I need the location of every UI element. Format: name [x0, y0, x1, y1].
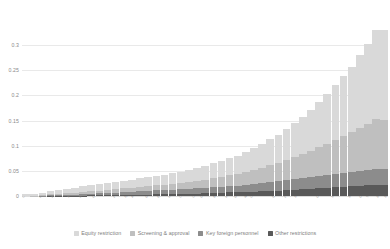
bar-segment [201, 166, 209, 180]
bar-segment [275, 135, 283, 163]
bar-column [372, 30, 380, 196]
bar-segment [332, 187, 340, 196]
bar-segment [348, 186, 356, 196]
bar-column [22, 30, 30, 196]
bar-column [315, 30, 323, 196]
bar-segment [266, 165, 274, 182]
bar-segment [340, 173, 348, 187]
bar-column [144, 30, 152, 196]
bar-segment [128, 180, 136, 188]
bar-column [218, 30, 226, 196]
bar-segment [136, 178, 144, 187]
bar-column [153, 30, 161, 196]
bar-segment [307, 177, 315, 189]
bar-segment [283, 180, 291, 190]
bar-segment [323, 144, 331, 175]
bar-column [120, 30, 128, 196]
bar-column [112, 30, 120, 196]
bar-segment [372, 30, 380, 119]
bar-segment [275, 163, 283, 181]
bar-segment [340, 187, 348, 196]
y-axis-tick-label: 0 [16, 193, 19, 199]
x-axis-labels: LuxembourgPortugalNetherlandsSloveniaRom… [22, 196, 388, 224]
legend-item[interactable]: Equity restriction [74, 230, 122, 236]
legend-item[interactable]: Screening & approval [130, 230, 189, 236]
bar-segment [340, 76, 348, 136]
bar-column [136, 30, 144, 196]
bar-segment [315, 176, 323, 188]
x-axis-tick-label: Japan [376, 196, 383, 199]
bar-segment [201, 180, 209, 188]
bar-column [340, 30, 348, 196]
bar-column [266, 30, 274, 196]
y-axis-tick-label: 0.3 [11, 42, 19, 48]
x-axis-tick-label: Latvia [192, 196, 199, 199]
bar-segment [185, 182, 193, 189]
legend-item[interactable]: Key foreign personnel [198, 230, 258, 236]
x-axis-tick-label: Finland [113, 196, 121, 199]
bar-column [128, 30, 136, 196]
legend-item[interactable]: Other restrictions [268, 230, 317, 236]
bar-column [87, 30, 95, 196]
bar-segment [348, 67, 356, 132]
bar-segment [380, 185, 388, 196]
y-axis-tick-label: 0.2 [11, 92, 19, 98]
y-axis-tick-label: 0.15 [9, 118, 20, 124]
bar-segment [323, 188, 331, 196]
bar-segment [250, 170, 258, 184]
bar-segment [291, 179, 299, 190]
bar-column [201, 30, 209, 196]
x-axis-tick-label: Portugal [39, 196, 47, 199]
bar-segment [226, 175, 234, 186]
bar-column [348, 30, 356, 196]
bar-segment [258, 168, 266, 183]
bar-segment [364, 44, 372, 124]
x-axis-tick-label: Ireland [225, 196, 232, 199]
bar-column [356, 30, 364, 196]
y-axis-tick-label: 0.05 [9, 168, 20, 174]
bar-segment [291, 157, 299, 179]
bar-segment [299, 117, 307, 154]
bar-segment [266, 182, 274, 191]
bar-segment [250, 148, 258, 170]
bar-column [275, 30, 283, 196]
legend-label: Screening & approval [138, 230, 190, 236]
bar-segment [266, 139, 274, 165]
bar-segment [218, 161, 226, 177]
bar-segment [315, 188, 323, 196]
bar-segment [169, 173, 177, 184]
bar-segment [283, 160, 291, 180]
bar-column [299, 30, 307, 196]
bar-column [96, 30, 104, 196]
bar-segment [372, 169, 380, 185]
x-axis-tick-label: Czech Republic [92, 196, 106, 199]
plot-area [22, 30, 388, 196]
x-axis-tick-label: Sweden [348, 196, 356, 199]
bar-segment [234, 174, 242, 186]
bar-segment [323, 175, 331, 188]
x-axis-tick-label: Romania [79, 196, 88, 199]
bar-segment [193, 181, 201, 189]
bar-segment [307, 110, 315, 151]
x-axis-tick-label: United Kingdom [250, 196, 264, 199]
bar-column [291, 30, 299, 196]
bar-column [79, 30, 87, 196]
x-axis-tick-label: Luxembourg [22, 196, 33, 199]
bar-segment [356, 55, 364, 128]
bar-segment [258, 144, 266, 168]
bar-segment [332, 85, 340, 140]
bar-column [39, 30, 47, 196]
x-axis-tick-label: Turkey [366, 196, 373, 199]
bar-column [283, 30, 291, 196]
stacked-bar-chart: 00.050.10.150.20.250.3 LuxembourgPortuga… [0, 0, 390, 249]
y-axis-tick-label: 0.1 [11, 143, 19, 149]
legend-label: Other restrictions [275, 230, 316, 236]
bar-segment [372, 119, 380, 169]
bar-segment [250, 184, 258, 192]
x-axis-tick-label: Netherlands [51, 196, 62, 199]
bar-segment [210, 163, 218, 178]
bar-segment [218, 177, 226, 187]
bar-segment [332, 174, 340, 187]
bar-segment [242, 172, 250, 185]
bar-column [71, 30, 79, 196]
